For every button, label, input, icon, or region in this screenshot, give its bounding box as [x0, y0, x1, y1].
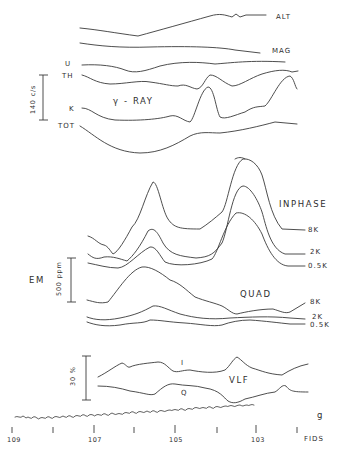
- alt-label: ALT: [276, 14, 291, 21]
- tick-label-103: 103: [251, 437, 265, 444]
- vlf-i-trace: [98, 357, 308, 377]
- inphase-8k-label: 8K: [308, 227, 319, 234]
- alt-trace: [80, 14, 266, 36]
- inphase-05k-trace: [88, 213, 305, 268]
- quad-2k-trace: [87, 306, 305, 320]
- quad-05k-label: 0.5K: [310, 322, 330, 329]
- gamma-ray-label: γ - RAY: [113, 97, 154, 106]
- quad-8k-trace: [87, 267, 305, 314]
- vlf-q-label: Q: [181, 390, 188, 397]
- vlf-label: VLF: [229, 376, 249, 385]
- u-label: U: [65, 61, 71, 68]
- vlf-scale-bar: [82, 356, 91, 400]
- em-scale-bar: [67, 258, 76, 302]
- vlf-scale-label: 30 %: [70, 366, 77, 386]
- g-trace: [15, 405, 254, 420]
- tick-label-109: 109: [7, 437, 21, 444]
- g-label: g: [317, 411, 322, 420]
- em-label: EM: [29, 276, 45, 285]
- quad-label: QUAD: [240, 290, 272, 299]
- th-label: TH: [62, 73, 74, 80]
- inphase-2k-trace: [88, 186, 305, 261]
- geophysical-profile-chart: [0, 0, 345, 462]
- tick-label-107: 107: [88, 437, 102, 444]
- mag-trace: [80, 43, 260, 53]
- tot-label: TOT: [58, 123, 75, 130]
- fiducial-axis: [12, 425, 297, 433]
- vlf-q-trace: [98, 384, 308, 403]
- quad-05k-trace: [87, 320, 305, 326]
- quad-2k-label: 2K: [312, 314, 323, 321]
- gamma-scale-label: 140 c/s: [30, 85, 37, 114]
- quad-8k-label: 8K: [310, 299, 321, 306]
- inphase-05k-label: 0.5K: [308, 263, 328, 270]
- tick-label-105: 105: [169, 437, 183, 444]
- vlf-i-label: I: [181, 360, 184, 367]
- k-label: K: [69, 106, 75, 113]
- inphase-8k-trace: [88, 159, 305, 254]
- gamma-scale-bar: [39, 75, 48, 120]
- u-trace: [82, 61, 285, 72]
- fids-label: FIDS: [304, 436, 324, 443]
- inphase-2k-label: 2K: [310, 249, 321, 256]
- tot-trace: [80, 122, 297, 153]
- inphase-label: INPHASE: [279, 200, 327, 209]
- mag-label: MAG: [272, 48, 291, 55]
- th-trace: [82, 70, 298, 89]
- em-scale-label: 500 ppm: [56, 261, 63, 296]
